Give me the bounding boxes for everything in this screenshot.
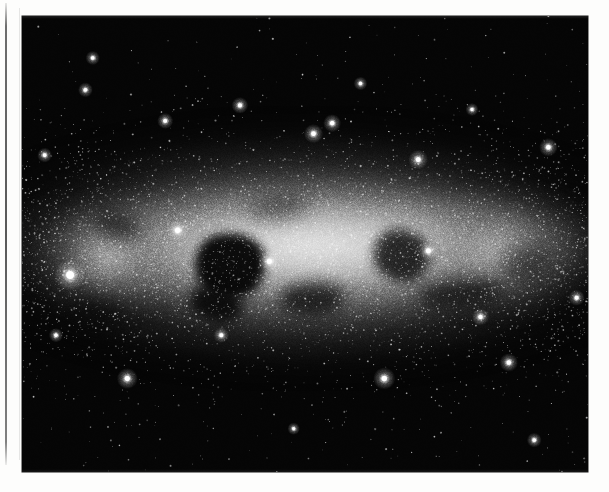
left-dark-wisp [90, 207, 143, 245]
central-dark-nebula [190, 228, 269, 303]
right-dark-streak [417, 276, 504, 312]
lower-left-dark-wisp [63, 296, 128, 332]
upper-dark-wisp [247, 191, 312, 224]
galactic-band-core-glow [22, 180, 588, 317]
galactic-band-right-knot [418, 189, 588, 317]
galactic-band-wide-glow [22, 116, 588, 380]
star-field [22, 16, 588, 472]
film-grain-overlay [22, 16, 588, 472]
mid-dark-patch [278, 281, 345, 317]
galactic-band-left-knot [33, 198, 180, 317]
far-right-dark-wisp [497, 241, 554, 287]
page-margin-rule [5, 3, 7, 465]
page-margin-rule-secondary [19, 8, 20, 460]
central-dark-nebula-tail [186, 282, 246, 327]
right-dark-nebula [369, 226, 434, 287]
scanned-page [0, 0, 609, 492]
astrophotograph-plate [22, 16, 588, 472]
